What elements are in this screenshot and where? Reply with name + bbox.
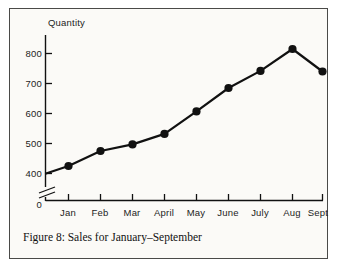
line-chart-svg: [10, 9, 329, 219]
data-point-aug: [288, 45, 296, 53]
data-point-markers: [64, 45, 326, 170]
data-point-may: [192, 107, 200, 115]
y-axis-ticks: [46, 54, 53, 174]
data-point-april: [160, 130, 168, 138]
data-point-july: [256, 67, 264, 75]
data-point-jan: [64, 162, 72, 170]
chart-plot-area: Quantity 800 700 600 500 400 0 Jan Feb M…: [10, 9, 329, 219]
data-point-feb: [96, 147, 104, 155]
data-point-mar: [128, 140, 136, 148]
axis-break-icon: [39, 187, 55, 198]
figure-caption: Figure 8: Sales for January–September: [23, 231, 202, 243]
data-point-sept: [318, 67, 326, 75]
data-point-june: [224, 84, 232, 92]
data-line: [46, 49, 323, 174]
x-axis-ticks: [69, 194, 323, 201]
figure-frame: Quantity 800 700 600 500 400 0 Jan Feb M…: [9, 8, 328, 259]
